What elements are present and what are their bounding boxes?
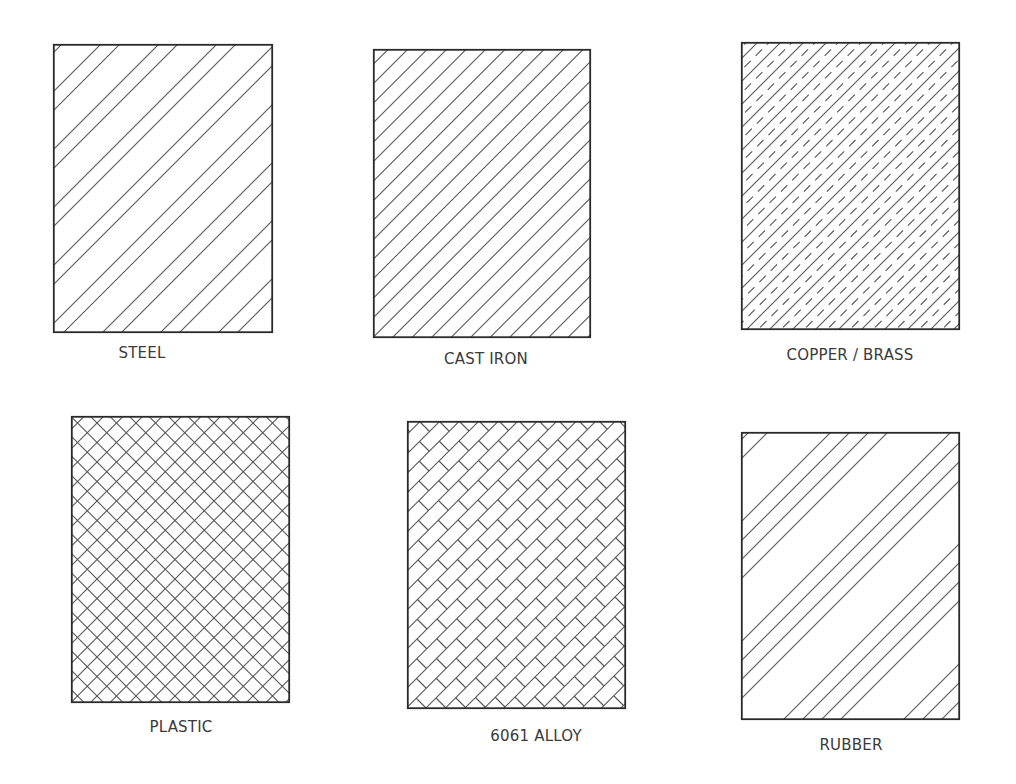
hatch-panel-rubber <box>741 432 960 720</box>
label-plastic: PLASTIC <box>150 718 213 736</box>
label-cast-iron: CAST IRON <box>444 350 528 368</box>
hatch-panel-cast-iron <box>373 49 591 338</box>
label-rubber: RUBBER <box>819 736 882 754</box>
hatch-panel-6061-alloy <box>407 421 626 709</box>
hatch-panel-copper-brass <box>741 42 960 330</box>
label-6061-alloy: 6061 ALLOY <box>490 727 582 745</box>
label-copper-brass: COPPER / BRASS <box>786 346 913 364</box>
hatch-panel-steel <box>53 44 273 333</box>
hatch-panel-plastic <box>71 416 290 703</box>
label-steel: STEEL <box>119 344 166 362</box>
